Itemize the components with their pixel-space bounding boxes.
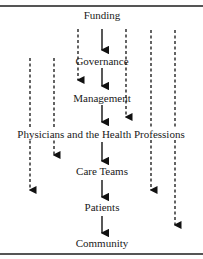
node-physicians: Physicians and the Health Professions xyxy=(17,128,184,140)
node-management: Management xyxy=(73,92,130,104)
node-governance: Governance xyxy=(75,55,128,67)
node-community: Community xyxy=(76,237,129,249)
node-patients: Patients xyxy=(85,201,120,213)
node-funding: Funding xyxy=(84,9,121,21)
node-care-teams: Care Teams xyxy=(76,165,128,177)
